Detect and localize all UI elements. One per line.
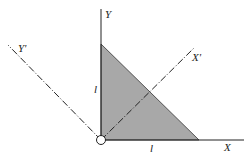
diagram-canvas: Y X X' Y' l l: [0, 0, 245, 163]
y-prime-axis: [8, 45, 101, 140]
shaded-triangle: [101, 44, 199, 140]
y-axis-label: Y: [105, 8, 113, 20]
horizontal-leg-label: l: [150, 142, 153, 154]
x-axis-label: X: [223, 141, 232, 153]
x-prime-label: X': [191, 51, 202, 63]
y-prime-label: Y': [18, 42, 27, 54]
origin-marker: [97, 136, 106, 145]
vertical-leg-label: l: [94, 83, 97, 95]
